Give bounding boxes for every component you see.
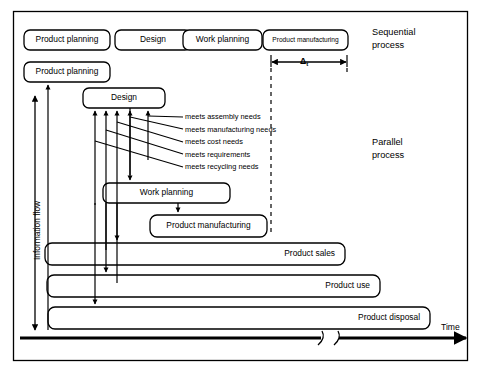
lifecycle-bar-shapes [45, 243, 430, 329]
diagram-vector-layer [0, 0, 481, 373]
time-axis [20, 331, 466, 345]
parallel-box-shapes [24, 62, 267, 237]
needs-connector-lines [95, 116, 183, 167]
sequential-box-shapes [24, 30, 348, 50]
delta-t-measure [271, 55, 347, 67]
diagram-canvas: Product planning Design Work planning Pr… [0, 0, 481, 373]
